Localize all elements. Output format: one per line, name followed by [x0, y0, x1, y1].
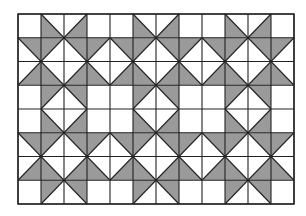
- quilt-cell: [64, 38, 87, 62]
- quilt-cell: [18, 14, 41, 38]
- quilt-cell: [225, 109, 248, 133]
- quilt-cell: [202, 62, 225, 86]
- quilt-cell: [133, 62, 156, 86]
- quilt-cell: [18, 38, 41, 62]
- quilt-cell: [225, 157, 248, 181]
- quilt-cell: [87, 14, 110, 38]
- quilt-cell: [64, 180, 87, 204]
- quilt-cell: [110, 133, 133, 157]
- quilt-cell: [271, 157, 294, 181]
- quilt-cell: [202, 180, 225, 204]
- quilt-cell: [248, 157, 271, 181]
- quilt-cell: [225, 38, 248, 62]
- quilt-pattern-diagram: [0, 0, 306, 216]
- quilt-cell: [64, 85, 87, 109]
- quilt-cell: [248, 109, 271, 133]
- quilt-cell: [64, 14, 87, 38]
- quilt-cell: [87, 157, 110, 181]
- quilt-cell: [271, 85, 294, 109]
- quilt-cell: [41, 109, 64, 133]
- quilt-cell: [18, 62, 41, 86]
- quilt-cell: [271, 38, 294, 62]
- quilt-cell: [87, 133, 110, 157]
- quilt-cell: [41, 38, 64, 62]
- quilt-cell: [64, 133, 87, 157]
- quilt-cell: [156, 38, 179, 62]
- quilt-cell: [156, 62, 179, 86]
- quilt-cell: [156, 109, 179, 133]
- quilt-cell: [225, 85, 248, 109]
- quilt-cell: [133, 180, 156, 204]
- quilt-cell: [179, 62, 202, 86]
- quilt-cell: [18, 133, 41, 157]
- quilt-cell: [202, 14, 225, 38]
- quilt-cell: [225, 180, 248, 204]
- quilt-cell: [179, 85, 202, 109]
- quilt-cell: [18, 109, 41, 133]
- quilt-cell: [202, 109, 225, 133]
- quilt-cell: [110, 62, 133, 86]
- quilt-cell: [41, 14, 64, 38]
- quilt-cell: [41, 133, 64, 157]
- quilt-cell: [179, 14, 202, 38]
- quilt-cell: [202, 85, 225, 109]
- quilt-cell: [248, 62, 271, 86]
- quilt-cell: [41, 157, 64, 181]
- quilt-cell: [87, 85, 110, 109]
- quilt-cell: [18, 180, 41, 204]
- quilt-cell: [179, 157, 202, 181]
- quilt-cell: [179, 180, 202, 204]
- quilt-cell: [110, 38, 133, 62]
- quilt-cell: [156, 180, 179, 204]
- quilt-cell: [110, 157, 133, 181]
- quilt-cell: [41, 85, 64, 109]
- quilt-cell: [64, 157, 87, 181]
- quilt-cell: [202, 38, 225, 62]
- quilt-cell: [87, 180, 110, 204]
- quilt-cell: [271, 180, 294, 204]
- quilt-cell: [18, 157, 41, 181]
- quilt-cell: [156, 14, 179, 38]
- quilt-cell: [18, 85, 41, 109]
- quilt-cell: [64, 62, 87, 86]
- quilt-cell: [248, 38, 271, 62]
- quilt-cell: [271, 133, 294, 157]
- quilt-cell: [133, 85, 156, 109]
- quilt-cell: [179, 38, 202, 62]
- quilt-cell: [133, 157, 156, 181]
- quilt-cell: [248, 180, 271, 204]
- quilt-cell: [41, 62, 64, 86]
- quilt-cell: [133, 14, 156, 38]
- quilt-cell: [110, 109, 133, 133]
- quilt-cell: [225, 133, 248, 157]
- quilt-cell: [248, 14, 271, 38]
- quilt-cell: [87, 62, 110, 86]
- quilt-cell: [248, 85, 271, 109]
- quilt-cell: [271, 62, 294, 86]
- quilt-cell: [179, 133, 202, 157]
- quilt-cell: [87, 38, 110, 62]
- quilt-cell: [271, 109, 294, 133]
- quilt-cell: [110, 14, 133, 38]
- quilt-cell: [202, 133, 225, 157]
- quilt-cell: [225, 14, 248, 38]
- quilt-cell: [110, 180, 133, 204]
- quilt-cell: [225, 62, 248, 86]
- quilt-cell: [41, 180, 64, 204]
- quilt-cell: [156, 133, 179, 157]
- quilt-cell: [248, 133, 271, 157]
- quilt-cell: [133, 109, 156, 133]
- quilt-cell: [64, 109, 87, 133]
- quilt-cell: [133, 133, 156, 157]
- quilt-cell: [156, 157, 179, 181]
- quilt-cell: [202, 157, 225, 181]
- quilt-cell: [87, 109, 110, 133]
- quilt-cell: [133, 38, 156, 62]
- quilt-cell: [271, 14, 294, 38]
- quilt-cell: [110, 85, 133, 109]
- quilt-cell: [179, 109, 202, 133]
- quilt-cell: [156, 85, 179, 109]
